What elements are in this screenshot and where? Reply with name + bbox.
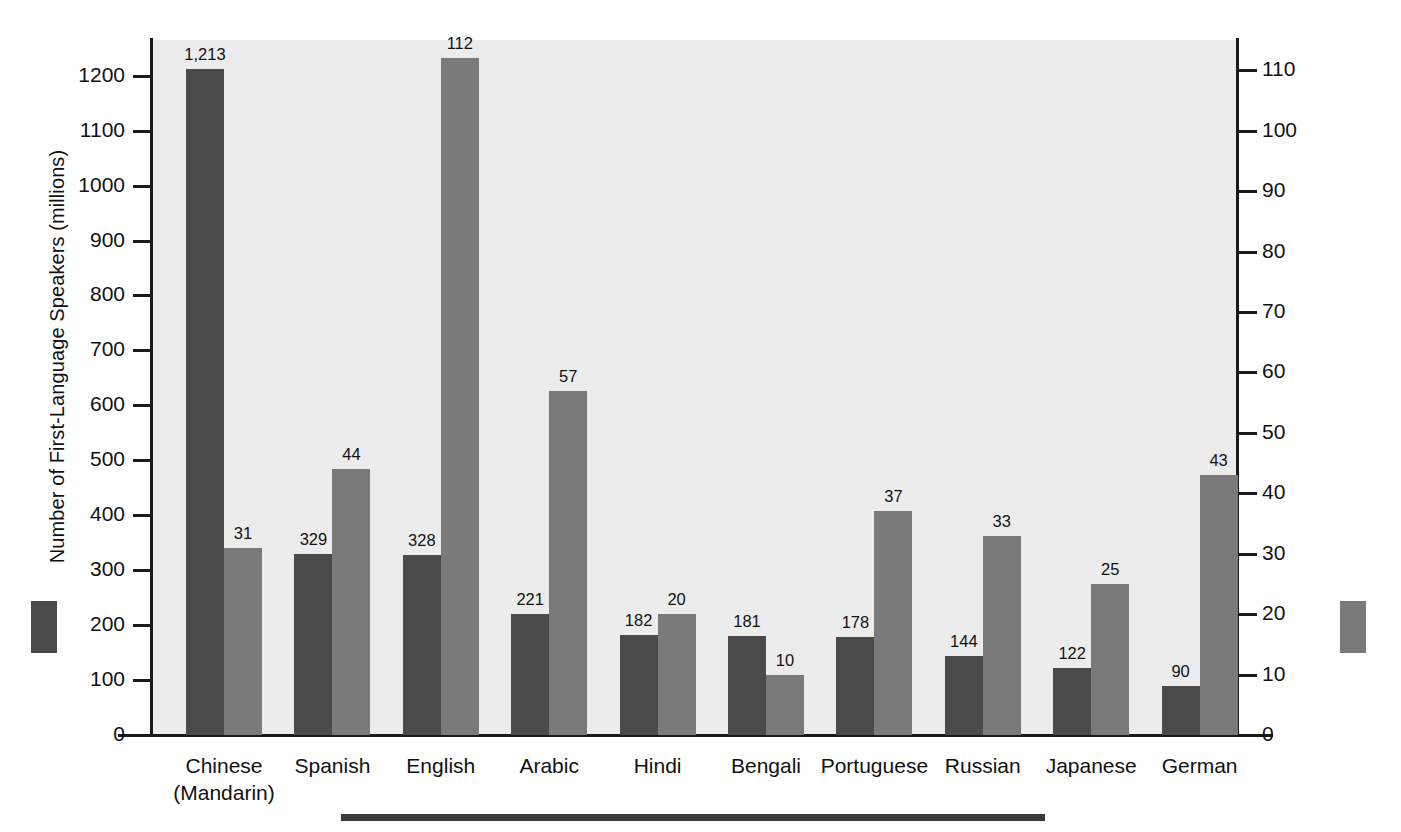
y-axis-left-tick [133, 349, 151, 352]
bar-countries-recognized [441, 58, 479, 735]
y-axis-left-tick [133, 679, 151, 682]
x-axis-category-label: Spanish [294, 752, 370, 779]
bar-countries-recognized [1091, 584, 1129, 735]
y-axis-left-tick [133, 569, 151, 572]
y-axis-left-tick-label: 100 [35, 667, 125, 691]
y-axis-left-tick [133, 130, 151, 133]
bar-first-language-speakers [620, 635, 658, 735]
y-axis-right-tick-label: 40 [1262, 480, 1352, 504]
x-axis-category-label: Japanese [1046, 752, 1137, 779]
bar-first-language-speakers [1053, 668, 1091, 735]
x-axis-category-label: German [1162, 752, 1238, 779]
y-axis-right-tick [1239, 251, 1257, 254]
y-axis-left-tick-label: 500 [35, 447, 125, 471]
y-axis-right-tick-label: 20 [1262, 601, 1352, 625]
x-axis-category-label-line2: (Mandarin) [173, 779, 275, 806]
x-axis-category-label: Russian [945, 752, 1021, 779]
y-axis-left-tick [133, 294, 151, 297]
y-axis-right-tick-label: 60 [1262, 359, 1352, 383]
y-axis-right-tick-label: 70 [1262, 299, 1352, 323]
y-axis-right-tick-label: 100 [1262, 118, 1352, 142]
y-axis-right-tick-label: 30 [1262, 541, 1352, 565]
bar-value-label: 10 [776, 651, 794, 670]
y-axis-right-tick-label: 80 [1262, 239, 1352, 263]
y-axis-right-tick [1239, 69, 1257, 72]
bar-value-label: 221 [516, 590, 544, 609]
chart-figure: Number of First-Language Speakers (milli… [0, 0, 1401, 832]
y-axis-left-tick [133, 459, 151, 462]
y-axis-left-tick-label: 800 [35, 282, 125, 306]
bar-countries-recognized [224, 548, 262, 735]
bar-value-label: 90 [1171, 662, 1189, 681]
y-axis-right-tick [1239, 492, 1257, 495]
y-axis-left-tick [133, 514, 151, 517]
bar-value-label: 178 [842, 613, 870, 632]
y-axis-left-tick [133, 75, 151, 78]
y-axis-left-tick-label: 0 [35, 722, 125, 746]
x-axis-category-label: Arabic [519, 752, 579, 779]
y-axis-left-tick-label: 1100 [35, 118, 125, 142]
bar-countries-recognized [766, 675, 804, 735]
y-axis-right-tick [1239, 130, 1257, 133]
x-axis-category-label: Bengali [731, 752, 801, 779]
bar-countries-recognized [658, 614, 696, 735]
y-axis-left-tick-label: 1200 [35, 63, 125, 87]
bar-value-label: 37 [884, 487, 902, 506]
bar-value-label: 43 [1209, 451, 1227, 470]
bar-countries-recognized [874, 511, 912, 735]
bar-first-language-speakers [728, 636, 766, 735]
y-axis-right-tick-label: 110 [1262, 57, 1352, 81]
y-axis-right-tick [1239, 613, 1257, 616]
bar-value-label: 181 [733, 612, 761, 631]
y-axis-right-tick [1239, 432, 1257, 435]
bar-value-label: 112 [447, 34, 473, 53]
y-axis-right-tick [1239, 190, 1257, 193]
footer-rule [341, 814, 1045, 821]
y-axis-left-tick [133, 240, 151, 243]
x-axis-category-label: Hindi [634, 752, 682, 779]
bar-countries-recognized [549, 391, 587, 735]
bar-first-language-speakers [1162, 686, 1200, 735]
bar-value-label: 20 [667, 590, 685, 609]
y-axis-left-line [150, 38, 153, 737]
bar-countries-recognized [332, 469, 370, 735]
y-axis-right-tick [1239, 371, 1257, 374]
y-axis-right-tick-label: 90 [1262, 178, 1352, 202]
y-axis-left-tick-label: 1000 [35, 173, 125, 197]
bar-value-label: 57 [559, 367, 577, 386]
y-axis-right-tick [1239, 553, 1257, 556]
bar-value-label: 182 [625, 611, 653, 630]
bar-value-label: 33 [993, 512, 1011, 531]
y-axis-left-tick [133, 624, 151, 627]
y-axis-left-tick-label: 900 [35, 228, 125, 252]
bar-value-label: 1,213 [184, 45, 225, 64]
y-axis-right-tick-label: 50 [1262, 420, 1352, 444]
bar-value-label: 122 [1058, 644, 1086, 663]
y-axis-left-tick [133, 185, 151, 188]
y-axis-left-tick [133, 404, 151, 407]
bar-first-language-speakers [511, 614, 549, 735]
y-axis-left-tick-label: 400 [35, 502, 125, 526]
bar-first-language-speakers [294, 554, 332, 735]
bar-value-label: 329 [300, 530, 328, 549]
y-axis-left-tick-label: 300 [35, 557, 125, 581]
y-axis-right-tick [1239, 674, 1257, 677]
y-axis-left-tick-label: 600 [35, 392, 125, 416]
y-axis-right-tick-label: 0 [1262, 722, 1352, 746]
bar-value-label: 25 [1101, 560, 1119, 579]
bar-value-label: 44 [342, 445, 360, 464]
y-axis-right-tick [1239, 311, 1257, 314]
bar-value-label: 144 [950, 632, 978, 651]
bar-first-language-speakers [836, 637, 874, 735]
bar-value-label: 31 [234, 524, 252, 543]
y-axis-left-tick [133, 734, 151, 737]
bar-first-language-speakers [403, 555, 441, 735]
x-axis-category-label: English [406, 752, 475, 779]
bar-countries-recognized [983, 536, 1021, 735]
y-axis-right-tick-label: 10 [1262, 662, 1352, 686]
y-axis-left-tick-label: 700 [35, 337, 125, 361]
x-axis-category-label: Chinese(Mandarin) [173, 752, 275, 806]
y-axis-left-tick-label: 200 [35, 612, 125, 636]
bar-countries-recognized [1200, 475, 1238, 735]
x-axis-category-label: Portuguese [821, 752, 928, 779]
